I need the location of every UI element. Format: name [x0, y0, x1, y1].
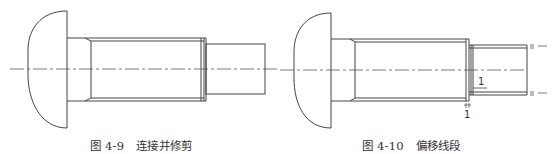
figure-caption: 图 4-9连接并修剪	[90, 137, 192, 153]
caption-title: 连接并修剪	[136, 139, 192, 153]
bolt-drawing-offset-lines: 1 1	[280, 0, 557, 130]
caption-number: 图 4-10	[362, 139, 404, 153]
offset-dimension-marks	[464, 44, 547, 108]
caption-number: 图 4-9	[90, 139, 124, 153]
figure-4-9: 图 4-9连接并修剪	[0, 0, 280, 154]
offset-label-inner: 1	[478, 76, 484, 87]
figure-caption: 图 4-10偏移线段	[362, 137, 461, 153]
figure-4-10: 1 1 图 4-10偏移线段	[280, 0, 557, 154]
caption-title: 偏移线段	[416, 139, 461, 153]
bolt-drawing-joined-trimmed	[0, 0, 280, 130]
bolt-head-arc	[28, 11, 67, 128]
offset-label-bottom: 1	[464, 109, 470, 120]
bolt-head-arc	[294, 13, 331, 128]
